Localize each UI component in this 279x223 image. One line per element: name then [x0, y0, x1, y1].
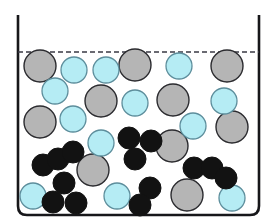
cyan-particle	[88, 130, 114, 156]
gray-particle	[119, 49, 151, 81]
cyan-particle	[42, 78, 68, 104]
gray-particle	[24, 106, 56, 138]
black-particle	[118, 127, 140, 149]
black-particle	[65, 192, 87, 214]
black-particle	[62, 141, 84, 163]
gray-particle	[157, 84, 189, 116]
beaker-particle-figure	[0, 0, 279, 223]
black-particle	[42, 191, 64, 213]
cyan-particle	[104, 183, 130, 209]
diagram-canvas	[0, 0, 279, 223]
black-particle	[53, 172, 75, 194]
cyan-particle	[60, 106, 86, 132]
gray-particle	[171, 179, 203, 211]
cyan-particle	[211, 88, 237, 114]
black-particle	[124, 148, 146, 170]
black-particle	[129, 194, 151, 216]
cyan-particle	[166, 53, 192, 79]
gray-particle	[24, 50, 56, 82]
gray-particle	[85, 85, 117, 117]
black-particle	[215, 167, 237, 189]
black-particle	[140, 130, 162, 152]
cyan-particle	[122, 90, 148, 116]
cyan-particle	[180, 113, 206, 139]
cyan-particle	[93, 57, 119, 83]
cyan-particle	[61, 57, 87, 83]
gray-particle	[216, 111, 248, 143]
gray-particle	[211, 50, 243, 82]
